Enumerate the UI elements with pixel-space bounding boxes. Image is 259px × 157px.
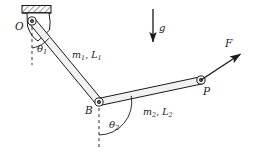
link-2-body [98, 77, 204, 106]
label-origin-O: O [15, 21, 24, 32]
label-theta2: θ2 [109, 120, 119, 132]
joint-B-joint [95, 98, 103, 106]
label-joint-B: B [85, 105, 93, 116]
label-theta1: θ1 [37, 44, 47, 56]
pivot-O-joint [28, 17, 36, 25]
link1-length-subscript: 1 [97, 54, 101, 62]
ceiling-support [22, 6, 51, 14]
theta1-subscript: 1 [43, 48, 47, 56]
label-link1-properties: m1, L1 [72, 50, 102, 61]
force-arrow [201, 54, 241, 80]
pendulum-figure: O B P g F θ1 θ2 m1, L1 m2, L2 [0, 0, 259, 157]
label-point-P: P [203, 86, 210, 97]
diagram-canvas [0, 0, 259, 157]
link2-length-subscript: 2 [168, 111, 172, 119]
link-1-body [29, 18, 101, 104]
link1-mass-symbol: m [72, 49, 81, 60]
label-link2-properties: m2, L2 [143, 107, 173, 118]
label-gravity-g: g [159, 23, 165, 33]
theta2-subscript: 2 [115, 124, 119, 132]
label-force-F: F [225, 38, 232, 49]
link2-mass-symbol: m [143, 106, 152, 117]
